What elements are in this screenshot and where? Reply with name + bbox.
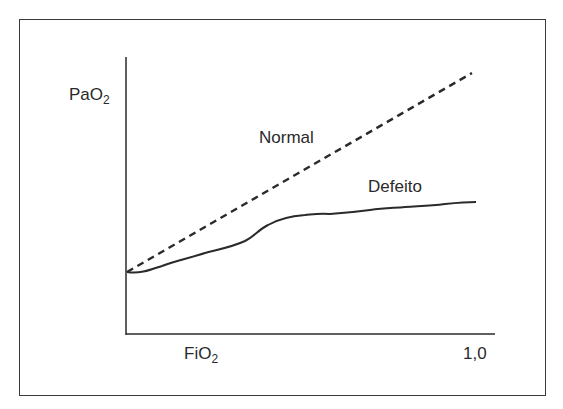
y-axis-label: PaO2 xyxy=(69,85,110,105)
series-normal-line xyxy=(127,73,472,272)
series-defeito-line xyxy=(127,202,476,273)
x-axis-max-tick: 1,0 xyxy=(463,344,487,364)
defeito-annotation: Defeito xyxy=(368,177,422,197)
normal-annotation: Normal xyxy=(259,128,314,148)
x-axis-label: FiO2 xyxy=(184,344,218,364)
